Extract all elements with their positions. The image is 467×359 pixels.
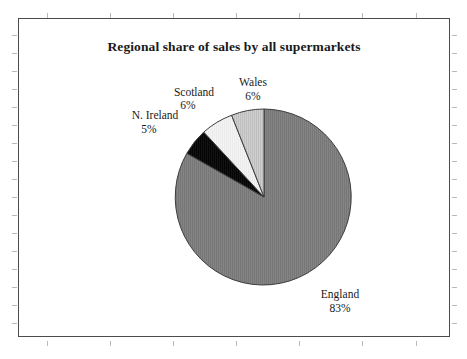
ruler-tick-right (452, 89, 457, 90)
ruler-tick-right (452, 161, 457, 162)
ruler-tick-left (12, 125, 17, 126)
ruler-tick-left (12, 143, 17, 144)
chart-title: Regional share of sales by all supermark… (19, 39, 449, 55)
ruler-tick-left (12, 107, 17, 108)
ruler-tick-right (452, 125, 457, 126)
pie-label-england: England 83% (302, 287, 378, 316)
ruler-tick-bottom (173, 341, 174, 346)
ruler-tick-bottom (236, 341, 237, 346)
ruler-tick-left (12, 251, 17, 252)
ruler-tick-left (12, 323, 17, 324)
ruler-tick-right (452, 143, 457, 144)
ruler-tick-right (452, 71, 457, 72)
pie-label-nireland: N. Ireland 5% (115, 108, 195, 137)
ruler-tick-left (12, 71, 17, 72)
ruler-tick-left (12, 215, 17, 216)
ruler-tick-bottom (416, 341, 417, 346)
ruler-tick-right (452, 305, 457, 306)
pie-label-england-percent: 83% (302, 301, 378, 315)
ruler-tick-right (452, 197, 457, 198)
ruler-tick-left (12, 197, 17, 198)
pie-label-wales-percent: 6% (229, 89, 277, 103)
ruler-tick-bottom (362, 341, 363, 346)
ruler-tick-right (452, 35, 457, 36)
pie-label-wales-name: Wales (239, 76, 267, 88)
ruler-tick-bottom (299, 341, 300, 346)
chart-page: Regional share of sales by all supermark… (0, 0, 467, 359)
pie-label-scotland-name: Scotland (174, 86, 214, 98)
ruler-tick-left (12, 233, 17, 234)
ruler-tick-right (452, 287, 457, 288)
ruler-tick-right (452, 251, 457, 252)
ruler-tick-left (12, 161, 17, 162)
ruler-tick-right (452, 179, 457, 180)
ruler-tick-left (12, 89, 17, 90)
ruler-tick-right (452, 215, 457, 216)
ruler-tick-left (12, 35, 17, 36)
ruler-tick-right (452, 269, 457, 270)
ruler-tick-left (12, 53, 17, 54)
ruler-tick-left (12, 287, 17, 288)
ruler-tick-right (452, 323, 457, 324)
ruler-tick-bottom (47, 341, 48, 346)
chart-frame: Regional share of sales by all supermark… (18, 18, 450, 337)
pie-label-nireland-name: N. Ireland (132, 109, 179, 121)
pie-label-nireland-percent: 5% (109, 122, 189, 136)
ruler-tick-left (12, 179, 17, 180)
ruler-tick-right (452, 107, 457, 108)
pie-label-wales: Wales 6% (229, 75, 277, 104)
ruler-tick-bottom (110, 341, 111, 346)
ruler-tick-left (12, 269, 17, 270)
ruler-tick-left (12, 305, 17, 306)
ruler-tick-right (452, 233, 457, 234)
ruler-tick-right (452, 53, 457, 54)
pie-label-england-name: England (321, 288, 359, 300)
